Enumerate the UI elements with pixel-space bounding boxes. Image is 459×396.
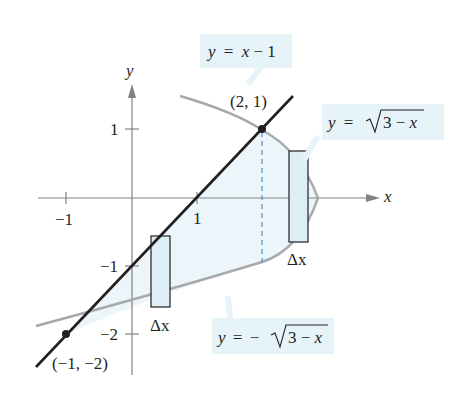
leader-line xyxy=(228,296,230,318)
point-label: (−1, −2) xyxy=(52,354,108,373)
diagram-canvas: −1 1 1 −1 −2 y x (2, 1) (−1, −2) Δx Δx y… xyxy=(0,0,459,396)
x-tick-label: −1 xyxy=(55,210,73,229)
intersection-point-2-1 xyxy=(258,125,266,133)
equation-line-label: y = x − 1 xyxy=(206,42,276,61)
x-axis-arrow-icon xyxy=(366,194,380,202)
shaded-region xyxy=(66,130,318,334)
radicand: 3 − x xyxy=(288,328,323,347)
delta-x-label: Δx xyxy=(287,250,307,269)
y-tick-label: −1 xyxy=(100,257,118,276)
point-label: (2, 1) xyxy=(230,92,267,111)
y-axis-arrow-icon xyxy=(128,84,136,98)
y-tick-label: 1 xyxy=(110,120,119,139)
x-tick-label: 1 xyxy=(193,209,202,228)
delta-x-rectangle-left xyxy=(151,236,170,307)
intersection-point-neg1-neg2 xyxy=(62,330,70,338)
leader-line xyxy=(248,66,262,84)
equation-lower-label: y = − xyxy=(216,328,259,347)
y-tick-label: −2 xyxy=(100,325,118,344)
delta-x-label: Δx xyxy=(150,316,170,335)
x-axis-label: x xyxy=(383,187,392,206)
delta-x-rectangle-right xyxy=(289,151,308,242)
y-axis-label: y xyxy=(124,61,134,80)
radicand: 3 − x xyxy=(383,113,418,132)
leader-line xyxy=(304,136,318,160)
equation-upper-label: y = xyxy=(326,113,353,132)
